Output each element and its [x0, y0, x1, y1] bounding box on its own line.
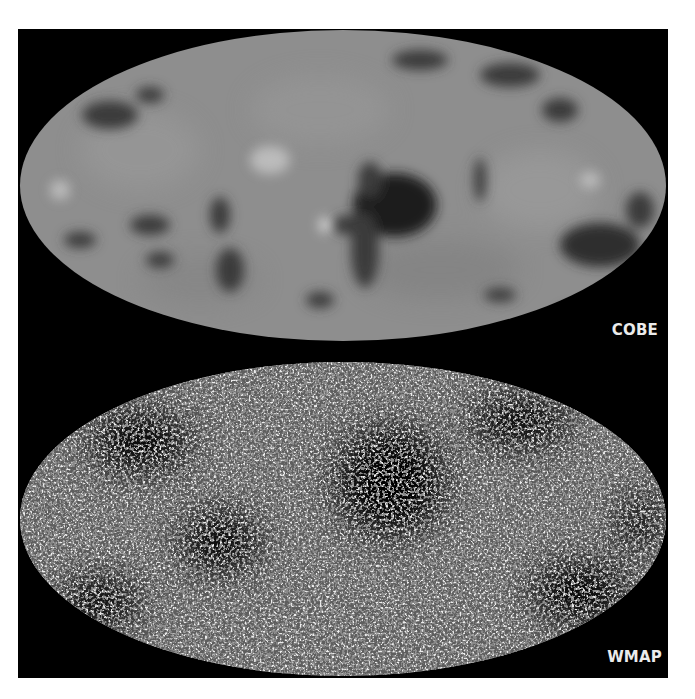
figure-panel: COBE WMAP — [18, 29, 668, 678]
cobe-sky-map — [20, 30, 666, 341]
wmap-map-graphic — [20, 362, 666, 676]
cobe-map-graphic — [20, 30, 666, 341]
wmap-label: WMAP — [607, 648, 662, 666]
cobe-label: COBE — [612, 321, 658, 339]
wmap-sky-map — [20, 362, 666, 676]
